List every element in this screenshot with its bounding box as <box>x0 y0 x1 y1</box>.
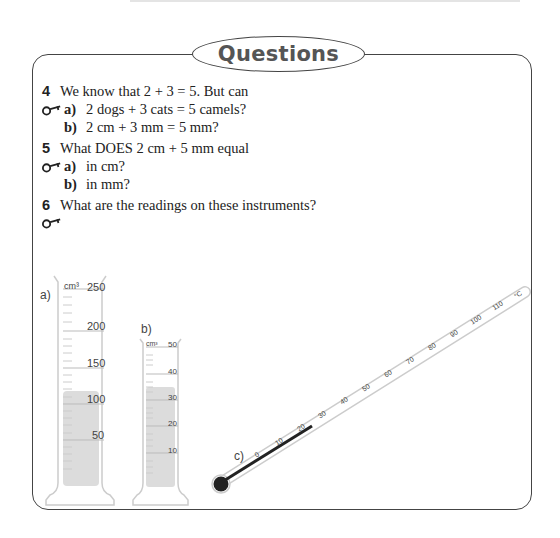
measuring-cylinder-a <box>46 276 114 505</box>
measuring-cylinder-b <box>133 339 188 505</box>
tick-label: 250 <box>87 281 105 293</box>
label-a: a) <box>40 288 51 302</box>
tick-label: 50 <box>168 340 177 349</box>
tick-label: 30 <box>168 393 177 402</box>
tick-label: 50 <box>92 429 104 441</box>
unit-a: cm³ <box>64 281 79 291</box>
tick-label: 200 <box>87 320 105 332</box>
tick-label: 10 <box>168 446 177 455</box>
label-b: b) <box>141 322 152 336</box>
tick-label: 20 <box>168 419 177 428</box>
tick-label: 150 <box>87 357 105 369</box>
tick-label: 40 <box>168 367 177 376</box>
label-c: c) <box>234 449 244 463</box>
unit-b: cm³ <box>146 340 158 347</box>
instruments-figure <box>0 0 560 538</box>
tick-label: 100 <box>87 393 105 405</box>
